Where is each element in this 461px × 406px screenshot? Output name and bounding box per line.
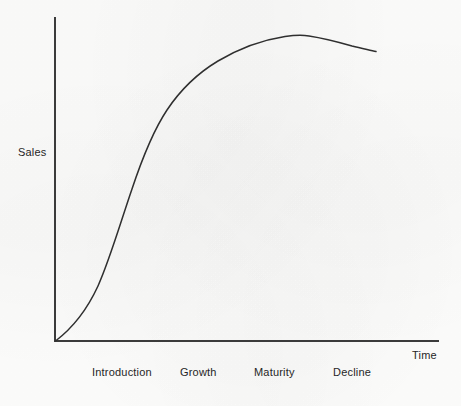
product-life-cycle-figure: Sales Time Introduction Growth Maturity … — [0, 0, 461, 406]
y-axis-label: Sales — [18, 146, 47, 158]
x-axis-label: Time — [412, 349, 437, 361]
sales-curve — [56, 35, 377, 341]
stage-label-growth: Growth — [180, 365, 217, 379]
chart-canvas — [0, 0, 461, 406]
stage-label-introduction: Introduction — [92, 365, 152, 379]
stage-label-decline: Decline — [333, 365, 371, 379]
stage-label-maturity: Maturity — [254, 365, 295, 379]
stage-label-row: Introduction Growth Maturity Decline — [0, 365, 461, 381]
